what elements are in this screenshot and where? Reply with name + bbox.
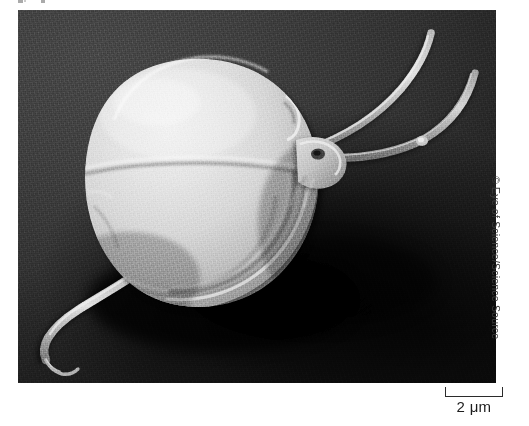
figure-root: © Eye of Science/Science Source 2 μm (0, 0, 529, 426)
cropped-label-remnant (41, 0, 45, 3)
micrograph-image (18, 10, 496, 383)
cropped-label-remnant (24, 0, 26, 2)
copyright-credit: © Eye of Science/Science Source (489, 176, 503, 386)
scale-bar-rule (445, 387, 503, 397)
cropped-label-remnant (18, 0, 23, 3)
micrograph-grain-layer-2 (18, 10, 496, 383)
scale-bar-label: 2 μm (443, 398, 505, 415)
scale-bar: 2 μm (443, 387, 505, 423)
